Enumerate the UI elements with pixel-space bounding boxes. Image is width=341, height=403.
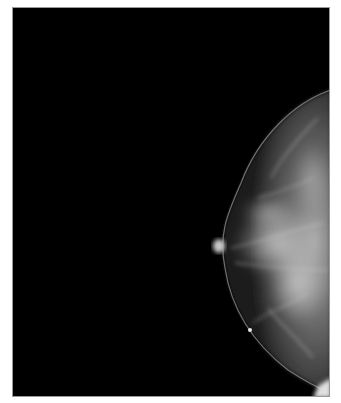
breast-tissue-graphic bbox=[13, 8, 330, 397]
xray-image-frame bbox=[12, 7, 330, 397]
